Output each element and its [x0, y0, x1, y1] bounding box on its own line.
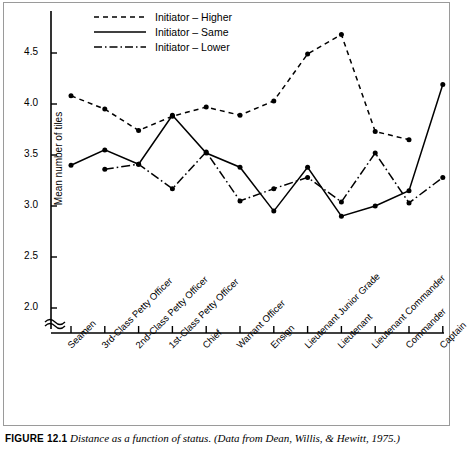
data-point [238, 165, 243, 170]
x-axis-tick-labels: Seamen3rd-Class Petty Officer2nd-Class P… [4, 3, 451, 103]
data-point [102, 167, 107, 172]
data-point [136, 128, 141, 133]
figure-caption-text: Distance as a function of status. (Data … [70, 432, 400, 444]
data-point [238, 198, 243, 203]
data-point [305, 175, 310, 180]
data-point [102, 107, 107, 112]
series-line-2 [105, 152, 443, 203]
y-tick-label: 4.5 [12, 46, 38, 57]
data-point [407, 200, 412, 205]
data-point [373, 204, 378, 209]
figure-frame: Mean number of tiles Initiator – Higher … [3, 2, 450, 426]
data-point [271, 186, 276, 191]
data-point [204, 149, 209, 154]
series-line-1 [71, 85, 443, 217]
figure-number: FIGURE 12.1 [5, 433, 67, 444]
data-point [271, 209, 276, 214]
data-point [407, 137, 412, 142]
data-point [339, 214, 344, 219]
data-point [102, 147, 107, 152]
data-point [373, 129, 378, 134]
figure-caption: FIGURE 12.1 Distance as a function of st… [5, 432, 450, 446]
y-tick-label: 4.0 [12, 97, 38, 108]
data-point [373, 151, 378, 156]
data-point [440, 175, 445, 180]
data-point [170, 113, 175, 118]
data-point [204, 105, 209, 110]
data-point [407, 188, 412, 193]
y-axis-title: Mean number of tiles [53, 99, 64, 219]
y-tick-label: 2.5 [12, 250, 38, 261]
y-tick-label: 3.5 [12, 148, 38, 159]
data-point [170, 186, 175, 191]
data-point [305, 165, 310, 170]
y-tick-label: 2.0 [12, 301, 38, 312]
data-point [69, 163, 74, 168]
data-point [238, 113, 243, 118]
data-point [136, 162, 141, 167]
data-point [339, 199, 344, 204]
y-tick-label: 3.0 [12, 199, 38, 210]
